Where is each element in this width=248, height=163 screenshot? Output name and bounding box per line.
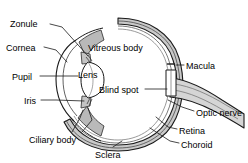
cornea-inner-surface <box>63 44 78 116</box>
label-optic-nerve: Optic nerve <box>196 108 242 118</box>
label-choroid: Choroid <box>181 140 213 150</box>
label-retina: Retina <box>179 126 205 136</box>
label-vitreous-body: Vitreous body <box>88 43 143 53</box>
label-sclera: Sclera <box>95 150 121 160</box>
label-zonule: Zonule <box>10 19 38 29</box>
leader-iris <box>41 100 84 101</box>
label-cornea: Cornea <box>6 43 36 53</box>
eye-diagram: Zonule Cornea Pupil Iris Ciliary body Sc… <box>0 0 248 163</box>
cornea <box>56 40 76 121</box>
label-macula: Macula <box>186 61 215 71</box>
label-ciliary-body: Ciliary body <box>29 135 76 145</box>
label-lens: Lens <box>78 70 98 80</box>
label-pupil: Pupil <box>12 72 32 82</box>
label-blind-spot: Blind spot <box>99 85 139 95</box>
label-iris: Iris <box>24 96 36 106</box>
leader-cornea <box>44 47 67 62</box>
